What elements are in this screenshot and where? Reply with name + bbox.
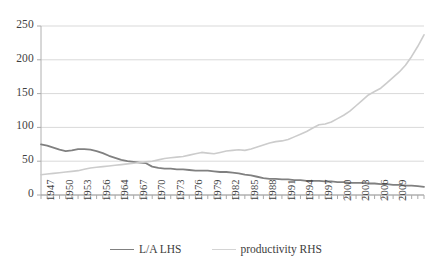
y-axis-tick-label: 250: [0, 18, 34, 30]
x-axis-tick-label: 2006: [379, 179, 390, 201]
y-axis-tick-label: 100: [0, 119, 34, 131]
x-axis-tick-label: 2000: [342, 179, 353, 201]
x-axis-tick-label: 1950: [64, 179, 75, 201]
x-axis-tick-label: 1964: [119, 179, 130, 201]
legend-label: productivity RHS: [241, 243, 322, 255]
x-axis-tick-label: 1947: [45, 179, 56, 201]
y-axis-tick-label: 0: [0, 187, 34, 199]
plot-area: [0, 0, 432, 273]
x-axis-tick-label: 2009: [397, 179, 408, 201]
y-axis-tick-label: 50: [0, 153, 34, 165]
x-axis-tick-label: 1970: [156, 179, 167, 201]
x-axis-tick-label: 2003: [360, 179, 371, 201]
legend-swatch: [110, 249, 134, 250]
x-axis-tick-label: 1976: [193, 179, 204, 201]
gridlines: [41, 26, 424, 195]
x-axis-tick-label: 1979: [212, 179, 223, 201]
x-axis-tick-label: 1985: [249, 179, 260, 201]
y-axis-tick-label: 200: [0, 52, 34, 64]
line-chart: 250200150100500 194719501953195619641967…: [0, 0, 432, 273]
x-axis-tick-label: 1973: [175, 179, 186, 201]
x-axis-tick-label: 1967: [138, 179, 149, 201]
x-axis-tick-label: 1997: [323, 179, 334, 201]
x-axis-tick-label: 1956: [101, 179, 112, 201]
y-axis-ticks: [37, 26, 41, 195]
x-axis-tick-label: 1953: [82, 179, 93, 201]
data-series-group: [41, 35, 424, 187]
x-axis-tick-label: 1991: [286, 179, 297, 201]
y-axis-tick-label: 150: [0, 86, 34, 98]
series-line-productivity-rhs: [41, 35, 424, 175]
x-axis-tick-label: 1988: [267, 179, 278, 201]
legend-label: L/A LHS: [139, 243, 182, 255]
legend-item-la-lhs: L/A LHS: [110, 243, 182, 255]
legend-swatch: [212, 249, 236, 250]
x-axis-tick-label: 1982: [230, 179, 241, 201]
x-axis-tick-label: 1994: [304, 179, 315, 201]
legend-item-productivity-rhs: productivity RHS: [212, 243, 322, 255]
chart-legend: L/A LHSproductivity RHS: [0, 243, 432, 255]
